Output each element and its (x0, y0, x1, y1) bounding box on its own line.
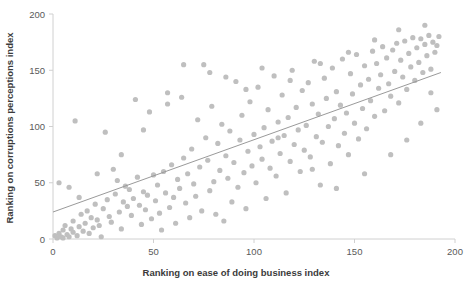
data-point (235, 185, 240, 190)
x-tick-label: 0 (50, 246, 55, 257)
data-point (340, 56, 345, 61)
data-point (81, 229, 86, 234)
data-point (418, 121, 423, 126)
data-point (197, 164, 202, 169)
data-point (175, 177, 180, 182)
data-point (77, 195, 82, 200)
data-point (171, 195, 176, 200)
data-point (422, 23, 427, 28)
data-point (330, 65, 335, 70)
data-point (358, 82, 363, 87)
data-point (300, 88, 305, 93)
data-point (274, 173, 279, 178)
data-point (384, 55, 389, 60)
data-point (366, 77, 371, 82)
data-point (278, 151, 283, 156)
data-point (424, 53, 429, 58)
data-point (121, 199, 126, 204)
data-point (320, 140, 325, 145)
data-point (247, 99, 252, 104)
data-point (346, 50, 351, 55)
data-point (370, 49, 375, 54)
data-point (360, 106, 365, 111)
data-point (60, 227, 65, 232)
data-point (430, 40, 435, 45)
data-point (155, 182, 160, 187)
data-point (334, 186, 339, 191)
data-point (420, 70, 425, 75)
data-point (394, 41, 399, 46)
data-point (191, 181, 196, 186)
data-point (298, 169, 303, 174)
data-point (304, 123, 309, 128)
data-point (199, 208, 204, 213)
data-point (107, 214, 112, 219)
scatter-chart: 050100150200 050100150200 Ranking on eas… (0, 0, 471, 283)
data-point (376, 86, 381, 91)
data-point (221, 218, 226, 223)
data-point (294, 105, 299, 110)
data-point (396, 27, 401, 32)
data-point (181, 62, 186, 67)
data-point (334, 89, 339, 94)
data-point (338, 103, 343, 108)
y-axis-label: Ranking on corruptions perceptions index (4, 32, 15, 224)
data-point (153, 198, 158, 203)
data-point (380, 44, 385, 49)
data-point (350, 91, 355, 96)
y-tick-label: 200 (29, 9, 45, 20)
trendline-group (53, 73, 441, 213)
data-point (77, 224, 82, 229)
data-point (388, 94, 393, 99)
data-point (382, 108, 387, 113)
data-point (99, 234, 104, 239)
data-point (324, 96, 329, 101)
y-tick-label: 50 (34, 177, 45, 188)
data-point (193, 194, 198, 199)
data-point (280, 92, 285, 97)
data-point (173, 221, 178, 226)
data-point (213, 212, 218, 217)
data-point (215, 141, 220, 146)
chart-canvas: 050100150200 050100150200 Ranking on eas… (0, 0, 471, 283)
x-tick-label: 200 (447, 246, 463, 257)
data-point (356, 136, 361, 141)
data-point (139, 222, 144, 227)
x-tick-label: 150 (347, 246, 363, 257)
data-point (326, 124, 331, 129)
data-point (265, 107, 270, 112)
data-point (404, 87, 409, 92)
data-point (239, 113, 244, 118)
data-point (272, 73, 277, 78)
data-point (233, 79, 238, 84)
data-point (56, 180, 61, 185)
data-point (229, 199, 234, 204)
data-point (422, 42, 427, 47)
data-point (145, 193, 150, 198)
data-point (392, 69, 397, 74)
data-point (103, 130, 108, 135)
data-point (223, 74, 228, 79)
data-point (165, 101, 170, 106)
data-point (426, 33, 431, 38)
data-point (288, 159, 293, 164)
trend-line (53, 73, 441, 213)
data-point (362, 63, 367, 68)
data-point (308, 154, 313, 159)
data-point (416, 60, 421, 65)
data-point (348, 71, 353, 76)
data-point (408, 64, 413, 69)
data-point (434, 43, 439, 48)
data-point (414, 45, 419, 50)
data-point (241, 170, 246, 175)
x-tick-group: 050100150200 (50, 239, 463, 257)
data-point (111, 167, 116, 172)
data-point (147, 109, 152, 114)
data-point (237, 137, 242, 142)
data-point (179, 95, 184, 100)
data-point (66, 234, 71, 239)
data-point (261, 125, 266, 130)
data-point (372, 114, 377, 119)
data-point (71, 218, 76, 223)
data-point (269, 139, 274, 144)
